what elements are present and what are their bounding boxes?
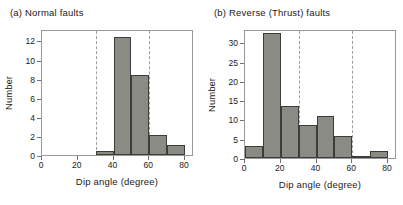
figure-histograms: (a) Normal faults 024681012 020406080 Nu… xyxy=(0,0,403,205)
histogram-bar xyxy=(334,136,352,158)
y-tick xyxy=(37,118,41,119)
x-axis-label-reverse-thrust-faults: Dip angle (degree) xyxy=(279,179,361,190)
y-tick-label: 10 xyxy=(26,56,35,65)
y-axis-reverse-thrust-faults: 051015202530 xyxy=(226,30,244,159)
y-tick-label: 12 xyxy=(26,37,35,46)
y-tick-label: 30 xyxy=(229,39,238,48)
y-tick-label: 4 xyxy=(30,114,35,123)
y-tick xyxy=(37,137,41,138)
y-tick xyxy=(240,120,244,121)
x-tick-label: 0 xyxy=(39,161,44,170)
y-tick xyxy=(240,63,244,64)
y-axis-normal-faults: 024681012 xyxy=(23,30,41,156)
panel-b-title: (b) Reverse (Thrust) faults xyxy=(214,7,330,18)
histogram-bar xyxy=(263,33,281,158)
histogram-bar xyxy=(96,151,114,155)
histogram-bar xyxy=(114,37,132,155)
x-axis-reverse-thrust-faults: 020406080 xyxy=(244,159,396,175)
histogram-bar xyxy=(167,145,185,155)
x-tick-label: 20 xyxy=(72,161,81,170)
reference-line-60 xyxy=(352,31,353,158)
y-axis-label-normal-faults: Number xyxy=(3,76,14,110)
x-axis-label-normal-faults: Dip angle (degree) xyxy=(76,176,158,187)
y-tick-label: 6 xyxy=(30,94,35,103)
y-tick-label: 0 xyxy=(30,152,35,161)
x-tick-label: 80 xyxy=(382,164,391,173)
x-tick-label: 60 xyxy=(144,161,153,170)
y-tick xyxy=(37,80,41,81)
x-tick-label: 20 xyxy=(275,164,284,173)
y-tick xyxy=(240,82,244,83)
y-tick-label: 15 xyxy=(229,97,238,106)
x-tick-label: 80 xyxy=(179,161,188,170)
reference-line-30 xyxy=(96,31,97,155)
histogram-bar xyxy=(281,106,299,158)
histogram-bar xyxy=(370,151,388,158)
y-tick-label: 2 xyxy=(30,133,35,142)
histogram-bar xyxy=(299,125,317,159)
histogram-bar xyxy=(352,156,370,158)
histogram-bar xyxy=(317,116,335,158)
histogram-bar xyxy=(149,135,167,155)
panel-normal-faults: (a) Normal faults 024681012 020406080 Nu… xyxy=(0,0,200,205)
y-tick-label: 5 xyxy=(233,135,238,144)
histogram-bar xyxy=(131,75,149,155)
y-tick xyxy=(240,101,244,102)
y-tick-label: 20 xyxy=(229,78,238,87)
x-tick-label: 0 xyxy=(242,164,247,173)
y-tick-label: 0 xyxy=(233,155,238,164)
y-tick-label: 10 xyxy=(229,116,238,125)
x-tick-label: 40 xyxy=(311,164,320,173)
y-tick-label: 25 xyxy=(229,58,238,67)
x-axis-normal-faults: 020406080 xyxy=(41,156,193,172)
y-tick xyxy=(240,43,244,44)
panel-a-title: (a) Normal faults xyxy=(10,7,84,18)
y-axis-label-reverse-thrust-faults: Number xyxy=(206,78,217,112)
panel-reverse-thrust-faults: (b) Reverse (Thrust) faults 051015202530… xyxy=(200,0,403,205)
plot-area-reverse-thrust-faults xyxy=(244,30,396,159)
x-tick-label: 60 xyxy=(347,164,356,173)
plot-area-normal-faults xyxy=(41,30,193,156)
y-tick xyxy=(37,99,41,100)
y-tick xyxy=(37,61,41,62)
y-tick xyxy=(37,41,41,42)
histogram-bar xyxy=(245,146,263,158)
x-tick-label: 40 xyxy=(108,161,117,170)
y-tick xyxy=(240,140,244,141)
y-tick-label: 8 xyxy=(30,75,35,84)
